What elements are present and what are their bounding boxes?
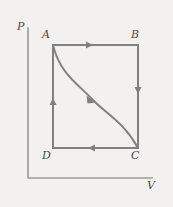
pv-diagram-figure: P V A B C D	[0, 0, 173, 207]
arrow-a-to-b-right	[86, 42, 93, 49]
vertex-label-c: C	[131, 150, 139, 161]
arrow-c-to-d-left	[88, 145, 95, 152]
arrow-b-to-c-down	[135, 87, 142, 94]
direction-arrows	[50, 42, 142, 152]
y-axis-label: P	[17, 21, 24, 32]
vertex-label-a: A	[42, 29, 50, 40]
vertex-label-d: D	[42, 150, 51, 161]
curve-a-to-c	[53, 45, 138, 148]
vertex-label-b: B	[131, 29, 139, 40]
cycle-rectangle	[53, 45, 138, 148]
pv-diagram-canvas	[0, 0, 173, 207]
arrow-d-to-a-up	[50, 98, 57, 105]
x-axis-label: V	[147, 180, 155, 191]
curve-a-to-c-group	[53, 45, 138, 148]
